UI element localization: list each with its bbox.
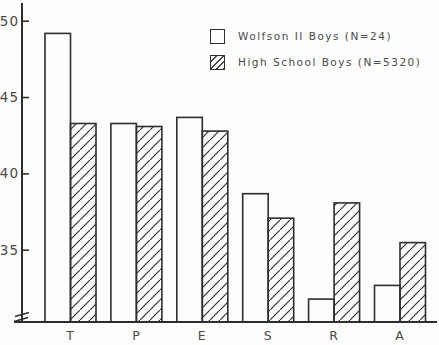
legend-swatch-hatched-icon bbox=[210, 55, 225, 70]
legend: Wolfson II Boys (N=24) High School Boys … bbox=[210, 29, 421, 70]
bar-P-hatched bbox=[136, 127, 162, 323]
bar-E-open bbox=[177, 117, 203, 322]
y-tick-label-45: 45 bbox=[0, 89, 19, 105]
x-category-label-R: R bbox=[329, 328, 339, 343]
bar-R-hatched bbox=[334, 203, 360, 322]
bar-P-open bbox=[111, 124, 136, 323]
x-category-label-E: E bbox=[198, 328, 207, 343]
y-tick-label-40: 40 bbox=[0, 165, 19, 181]
legend-item-label: High School Boys (N=5320) bbox=[238, 55, 421, 70]
x-category-label-T: T bbox=[65, 328, 75, 343]
bar-R-open bbox=[309, 299, 335, 322]
x-category-label-S: S bbox=[264, 328, 273, 343]
legend-item-label: Wolfson II Boys (N=24) bbox=[238, 29, 392, 44]
legend-swatch-open-icon bbox=[210, 29, 225, 44]
bar-A-open bbox=[375, 285, 401, 322]
bar-E-hatched bbox=[202, 131, 228, 322]
bar-T-open bbox=[45, 33, 71, 322]
bar-A-hatched bbox=[400, 243, 426, 322]
x-category-label-P: P bbox=[132, 328, 141, 343]
y-tick-label-35: 35 bbox=[0, 242, 19, 258]
legend-item: High School Boys (N=5320) bbox=[210, 55, 421, 70]
bar-S-hatched bbox=[268, 218, 294, 322]
x-category-label-A: A bbox=[395, 328, 405, 343]
y-tick-label-50: 50 bbox=[0, 13, 19, 29]
figure: 50454035TPESRA Wolfson II Boys (N=24) Hi… bbox=[0, 0, 439, 345]
bar-T-hatched bbox=[71, 124, 97, 323]
legend-item: Wolfson II Boys (N=24) bbox=[210, 29, 421, 44]
bar-S-open bbox=[243, 194, 269, 322]
